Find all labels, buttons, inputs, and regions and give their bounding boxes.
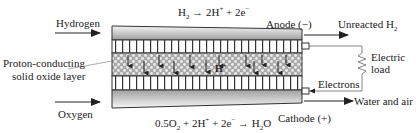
cell-body [112, 26, 302, 108]
anode-label: Anode (−) [266, 18, 312, 30]
eq-anode-arrow: → [192, 6, 203, 18]
ion-charge: + [223, 62, 227, 70]
unreacted-h2-text: Unreacted H [338, 18, 394, 30]
electric-load-line1: Electric [371, 51, 405, 63]
eq-anode-lhs-sub: 2 [186, 13, 190, 21]
eq-cathode-rhs-end: O [263, 117, 271, 129]
layer-label-line1: Proton-conducting [3, 57, 85, 69]
eq-cathode-rhs: H [252, 117, 260, 129]
eq-anode-lhs: H [178, 6, 186, 18]
water-air-label: Water and air [354, 95, 413, 107]
cathode-terminal [302, 88, 309, 94]
proton-ion-label: H+ [215, 63, 227, 75]
eq-cathode-lhs-b: + 2H [180, 117, 205, 129]
cathode-layer [112, 76, 302, 90]
ion-symbol: H [215, 63, 223, 74]
eq-anode-rhs-b-sup: − [245, 5, 249, 13]
oxygen-label: Oxygen [58, 108, 93, 120]
anode-terminal [302, 43, 309, 49]
eq-cathode-lhs-a: 0.5O [155, 117, 177, 129]
eq-cathode-arrow: → [235, 117, 252, 129]
anode-equation: H2 → 2H+ + 2e− [178, 6, 249, 18]
eq-anode-rhs-a: 2H [203, 6, 219, 18]
electron-arrowhead-icon [309, 89, 315, 94]
eq-cathode-lhs-c: + 2e [209, 117, 231, 129]
electric-load-line2: load [371, 63, 390, 75]
resistor-icon [358, 53, 366, 74]
cathode-gas-channel [112, 90, 302, 108]
layer-label-line2: solid oxide layer [12, 70, 85, 82]
unreacted-h2-sub: 2 [394, 25, 398, 33]
electrons-label: Electrons [318, 78, 360, 90]
cathode-label: Cathode (+) [278, 112, 331, 124]
eq-anode-rhs-b: + 2e [223, 6, 245, 18]
unreacted-h2-label: Unreacted H2 [338, 18, 397, 30]
electrolyte-layer [112, 53, 302, 76]
anode-layer [112, 40, 302, 53]
hydrogen-label: Hydrogen [56, 17, 100, 29]
cathode-equation: 0.5O2 + 2H+ + 2e− → H2O [155, 117, 271, 129]
